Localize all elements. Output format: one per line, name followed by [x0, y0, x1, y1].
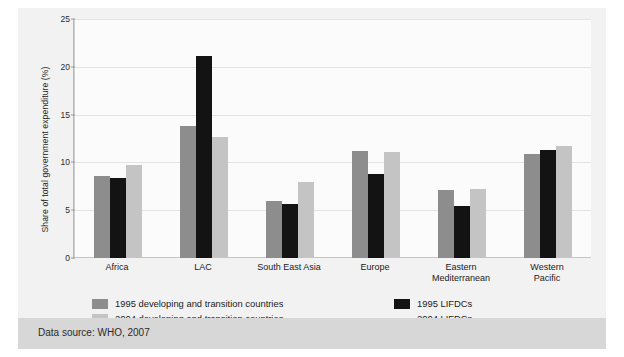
bar[interactable]	[524, 154, 540, 258]
bar[interactable]	[266, 201, 282, 258]
bar[interactable]	[110, 178, 126, 258]
legend-item-1[interactable]: 1995 LIFDCs	[394, 298, 472, 309]
bar-set	[505, 19, 591, 258]
bar[interactable]	[352, 151, 368, 258]
bar[interactable]	[384, 152, 400, 258]
bar-set	[161, 19, 247, 258]
bar[interactable]	[454, 206, 470, 258]
bar-set	[247, 19, 333, 258]
footer-bar: Data source: WHO, 2007	[18, 318, 606, 349]
x-axis-category-label-line: Western	[504, 262, 590, 273]
legend-label-0: 1995 developing and transition countries	[115, 298, 283, 309]
x-axis-category-label: WesternPacific	[504, 262, 590, 296]
x-axis-category-label: Europe	[332, 262, 418, 296]
x-axis-category-label-line: Africa	[74, 262, 160, 273]
bar-group	[75, 19, 161, 258]
x-axis-category-label-line: Eastern	[418, 262, 504, 273]
y-axis-tick-10: 10	[61, 157, 70, 167]
bar[interactable]	[212, 137, 228, 258]
bar[interactable]	[282, 204, 298, 258]
x-axis-category-label: Africa	[74, 262, 160, 296]
bar[interactable]	[126, 165, 142, 258]
y-axis-label-wrap: Share of total government expenditure (%…	[42, 19, 56, 258]
bar-groups	[75, 19, 591, 258]
bar[interactable]	[540, 150, 556, 258]
x-axis-category-label-line: Pacific	[504, 273, 590, 284]
legend-swatch-medium-gray-icon	[92, 299, 108, 309]
bar-group	[247, 19, 333, 258]
bar-group	[161, 19, 247, 258]
y-axis-label: Share of total government expenditure (%…	[40, 30, 54, 269]
chart-panel: Share of total government expenditure (%…	[18, 8, 606, 318]
x-axis-category-label-line: LAC	[160, 262, 246, 273]
bar[interactable]	[298, 182, 314, 258]
bar-set	[419, 19, 505, 258]
x-axis-category-label: EasternMediterranean	[418, 262, 504, 296]
bar-group	[333, 19, 419, 258]
bar-set	[333, 19, 419, 258]
x-axis-category-labels: AfricaLACSouth East AsiaEuropeEasternMed…	[74, 262, 590, 296]
y-axis-tick-0: 0	[65, 253, 70, 263]
bar[interactable]	[94, 176, 110, 258]
x-axis-category-label-line: Mediterranean	[418, 273, 504, 284]
x-axis-category-label-line: South East Asia	[246, 262, 332, 273]
bar-group	[505, 19, 591, 258]
bar[interactable]	[196, 56, 212, 258]
y-axis-tick-15: 15	[61, 110, 70, 120]
bar-set	[75, 19, 161, 258]
bar[interactable]	[556, 146, 572, 258]
bar[interactable]	[438, 190, 454, 258]
x-axis-category-label: LAC	[160, 262, 246, 296]
y-axis-tick-5: 5	[65, 205, 70, 215]
legend-swatch-black-icon	[394, 299, 410, 309]
y-axis-tick-25: 25	[61, 14, 70, 24]
y-axis-tick-20: 20	[61, 62, 70, 72]
legend-label-1: 1995 LIFDCs	[417, 298, 472, 309]
data-source-text: Data source: WHO, 2007	[38, 327, 150, 338]
legend-item-0[interactable]: 1995 developing and transition countries	[92, 298, 283, 309]
legend-row-1995: 1995 developing and transition countries…	[74, 297, 574, 310]
bar[interactable]	[180, 126, 196, 258]
bar-group	[419, 19, 505, 258]
figure-container: Share of total government expenditure (%…	[0, 0, 624, 357]
x-axis-category-label-line: Europe	[332, 262, 418, 273]
plot-area: 0510152025	[74, 19, 591, 258]
bar[interactable]	[368, 174, 384, 258]
bar[interactable]	[470, 189, 486, 258]
x-axis-category-label: South East Asia	[246, 262, 332, 296]
